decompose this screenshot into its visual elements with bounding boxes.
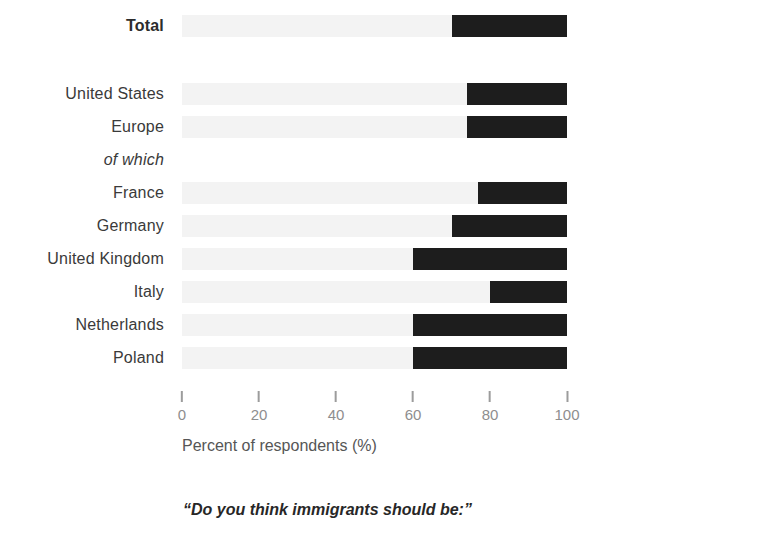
bar-light-segment bbox=[182, 215, 452, 237]
bar-dark-segment bbox=[413, 347, 567, 369]
bar-light-segment bbox=[182, 83, 467, 105]
tick-label: 100 bbox=[554, 406, 579, 423]
bar-light-segment bbox=[182, 116, 467, 138]
chart-row: Italy bbox=[0, 281, 771, 303]
bar-track bbox=[182, 182, 567, 204]
axis-tick: 100 bbox=[554, 391, 579, 423]
tick-label: 80 bbox=[482, 406, 499, 423]
bar-light-segment bbox=[182, 15, 452, 37]
axis-tick: 40 bbox=[328, 391, 345, 423]
tick-mark bbox=[412, 391, 414, 402]
bar-light-segment bbox=[182, 314, 413, 336]
bar-dark-segment bbox=[413, 314, 567, 336]
chart-row: of which bbox=[0, 149, 771, 171]
x-axis-title: Percent of respondents (%) bbox=[182, 437, 377, 455]
tick-mark bbox=[335, 391, 337, 402]
row-label: Italy bbox=[0, 281, 164, 303]
axis-tick: 20 bbox=[251, 391, 268, 423]
bar-track bbox=[182, 281, 567, 303]
row-label: Germany bbox=[0, 215, 164, 237]
row-label: of which bbox=[0, 149, 164, 171]
axis-tick: 0 bbox=[178, 391, 186, 423]
chart-row: France bbox=[0, 182, 771, 204]
bar-track bbox=[182, 116, 567, 138]
chart-row: United States bbox=[0, 83, 771, 105]
bar-dark-segment bbox=[490, 281, 567, 303]
axis-tick: 80 bbox=[482, 391, 499, 423]
chart-row: Total bbox=[0, 15, 771, 37]
chart-row: United Kingdom bbox=[0, 248, 771, 270]
bar-track bbox=[182, 215, 567, 237]
chart-caption: “Do you think immigrants should be:” bbox=[183, 501, 472, 519]
bar-dark-segment bbox=[452, 15, 568, 37]
tick-mark bbox=[258, 391, 260, 402]
chart-row: Europe bbox=[0, 116, 771, 138]
tick-label: 20 bbox=[251, 406, 268, 423]
row-label: France bbox=[0, 182, 164, 204]
bar-dark-segment bbox=[452, 215, 568, 237]
tick-label: 60 bbox=[405, 406, 422, 423]
bar-dark-segment bbox=[467, 83, 567, 105]
tick-label: 0 bbox=[178, 406, 186, 423]
row-label: United Kingdom bbox=[0, 248, 164, 270]
bar-dark-segment bbox=[478, 182, 567, 204]
bar-dark-segment bbox=[467, 116, 567, 138]
tick-mark bbox=[566, 391, 568, 402]
chart-row: Poland bbox=[0, 347, 771, 369]
bar-track bbox=[182, 248, 567, 270]
row-label: Poland bbox=[0, 347, 164, 369]
axis-tick: 60 bbox=[405, 391, 422, 423]
bar-light-segment bbox=[182, 281, 490, 303]
bar-track bbox=[182, 347, 567, 369]
x-axis: 020406080100 Percent of respondents (%) bbox=[182, 391, 567, 461]
bar-light-segment bbox=[182, 248, 413, 270]
chart-row: Germany bbox=[0, 215, 771, 237]
bar-light-segment bbox=[182, 347, 413, 369]
tick-mark bbox=[181, 391, 183, 402]
chart-row: Netherlands bbox=[0, 314, 771, 336]
tick-label: 40 bbox=[328, 406, 345, 423]
row-label: Netherlands bbox=[0, 314, 164, 336]
tick-mark bbox=[489, 391, 491, 402]
row-label: Total bbox=[0, 15, 164, 37]
row-label: Europe bbox=[0, 116, 164, 138]
bar-track bbox=[182, 314, 567, 336]
bar-track bbox=[182, 15, 567, 37]
chart-figure: TotalUnited StatesEuropeof whichFranceGe… bbox=[0, 0, 771, 557]
bar-light-segment bbox=[182, 182, 478, 204]
row-label: United States bbox=[0, 83, 164, 105]
bar-track bbox=[182, 83, 567, 105]
bar-dark-segment bbox=[413, 248, 567, 270]
